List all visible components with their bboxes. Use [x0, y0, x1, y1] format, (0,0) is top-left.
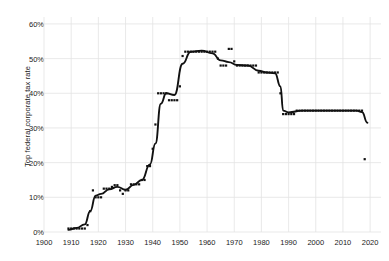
data-points — [67, 48, 365, 230]
x-tick-label: 2020 — [350, 238, 389, 247]
x-axis-ticks: 1900191019201930194019501960197019801990… — [0, 238, 389, 258]
plot-area — [0, 0, 389, 261]
trend-line — [68, 51, 367, 230]
chart-container: Top federal corporate tax rate 0%10%20%3… — [0, 0, 389, 261]
